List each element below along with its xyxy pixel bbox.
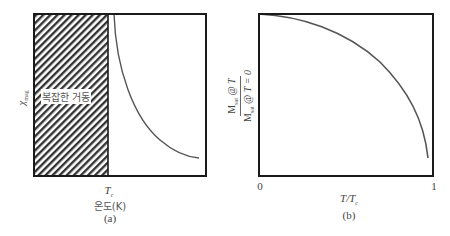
panel-b-caption: (b) — [343, 209, 356, 221]
num-sub: sat — [233, 98, 239, 105]
panel-b-y-axis-label: Msat @ T Msat @ T = 0 — [221, 70, 255, 122]
complex-behavior-label: 복잡한 거동 — [41, 89, 91, 104]
panel-b-x-axis-label: T/Tc — [340, 192, 358, 206]
den-sub: sat — [249, 106, 255, 113]
tc-tick-label: Tc — [105, 184, 114, 198]
panel-a-y-axis-label: χmag — [15, 90, 29, 105]
chi-symbol: χ — [15, 101, 27, 106]
magnetization-curve — [259, 14, 428, 158]
y-label-numerator: Msat @ T — [226, 76, 241, 115]
xlabel-tc-sub: c — [355, 200, 358, 206]
y-label-fraction: Msat @ T Msat @ T = 0 — [226, 70, 255, 122]
susceptibility-curve — [114, 14, 199, 158]
den-rest: @ T = 0 — [242, 70, 253, 106]
panel-a-caption: (a) — [104, 212, 116, 224]
chi-subscript: mag — [23, 90, 29, 100]
x-tick-1: 1 — [431, 180, 437, 192]
num-rest: @ T — [226, 78, 237, 98]
panel-b-plot — [259, 14, 433, 176]
panel-a-x-axis-label: 온도(K) — [94, 198, 126, 213]
num-m: M — [226, 105, 237, 114]
x-tick-0: 0 — [257, 180, 263, 192]
y-label-denominator: Msat @ T = 0 — [241, 70, 255, 122]
den-m: M — [242, 113, 253, 122]
